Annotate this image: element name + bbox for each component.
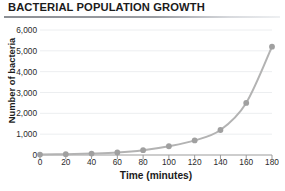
x-tick-label: 100 — [156, 157, 182, 167]
data-point-marker — [89, 151, 95, 157]
x-tick-label: 160 — [233, 157, 259, 167]
x-tick-label: 140 — [207, 157, 233, 167]
x-tick-label: 40 — [79, 157, 105, 167]
x-tick-label: 0 — [27, 157, 53, 167]
x-tick-label: 120 — [182, 157, 208, 167]
data-point-marker — [140, 147, 146, 153]
gridlines — [40, 30, 272, 134]
x-tick-label: 60 — [104, 157, 130, 167]
chart-plot-area: Number of bacteria 01,0002,0003,0004,000… — [0, 18, 285, 191]
chart-page: BACTERIAL POPULATION GROWTH Number of ba… — [0, 0, 285, 191]
x-axis-title: Time (minutes) — [40, 170, 272, 181]
data-point-marker — [269, 44, 275, 50]
page-title: BACTERIAL POPULATION GROWTH — [8, 1, 205, 13]
x-tick-label: 20 — [53, 157, 79, 167]
data-point-marker — [166, 143, 172, 149]
x-tick-label: 180 — [259, 157, 285, 167]
data-series-line — [40, 47, 272, 155]
x-tick-label: 80 — [130, 157, 156, 167]
data-point-marker — [114, 150, 120, 156]
data-point-marker — [218, 127, 224, 133]
data-series-markers — [37, 44, 275, 158]
data-point-marker — [243, 100, 249, 106]
data-point-marker — [192, 138, 198, 144]
